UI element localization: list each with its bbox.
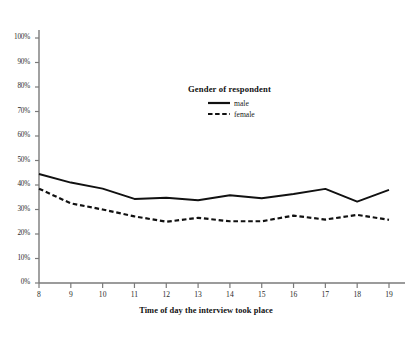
x-tick-label: 11: [125, 290, 143, 299]
legend-title: Gender of respondent: [188, 84, 338, 94]
x-axis-title: Time of day the interview took place: [0, 306, 412, 315]
y-tick-label: 70%: [2, 107, 30, 115]
x-tick-label: 12: [157, 290, 175, 299]
x-tick-label: 16: [285, 290, 303, 299]
x-tick-label: 8: [30, 290, 48, 299]
series-line-male: [39, 174, 389, 202]
legend-item-male: male: [208, 98, 338, 108]
y-tick-label: 0%: [2, 278, 30, 286]
legend-label-female: female: [234, 110, 255, 119]
y-tick-label: 40%: [2, 180, 30, 188]
plot-area: [0, 0, 412, 340]
y-tick-label: 30%: [2, 205, 30, 213]
x-tick-label: 15: [253, 290, 271, 299]
y-tick-label: 60%: [2, 131, 30, 139]
y-tick-label: 100%: [2, 33, 30, 41]
y-tick-label: 20%: [2, 229, 30, 237]
x-tick-label: 14: [221, 290, 239, 299]
x-tick-label: 9: [62, 290, 80, 299]
y-tick-label: 50%: [2, 156, 30, 164]
x-tick-label: 18: [348, 290, 366, 299]
y-tick-label: 80%: [2, 82, 30, 90]
x-tick-label: 19: [380, 290, 398, 299]
legend-label-male: male: [234, 99, 249, 108]
legend-dashed-line-icon: [208, 110, 230, 118]
tick-marks: [35, 38, 389, 288]
data-series: [39, 174, 389, 222]
line-chart: 0%10%20%30%40%50%60%70%80%90%100% 891011…: [0, 0, 412, 340]
x-tick-label: 17: [316, 290, 334, 299]
legend-solid-line-icon: [208, 99, 230, 107]
x-tick-label: 13: [189, 290, 207, 299]
x-tick-label: 10: [94, 290, 112, 299]
axes: [39, 30, 405, 283]
legend-item-female: female: [208, 109, 338, 119]
y-tick-label: 90%: [2, 58, 30, 66]
y-tick-label: 10%: [2, 254, 30, 262]
chart-legend: Gender of respondent male female: [188, 84, 338, 120]
